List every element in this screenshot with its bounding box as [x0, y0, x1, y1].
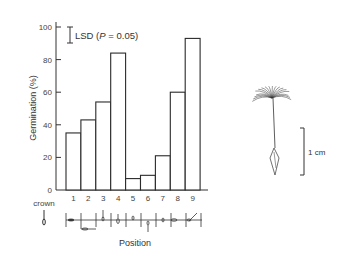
- position-diagram-icon: [66, 210, 202, 232]
- ytick-60: 60: [43, 88, 52, 97]
- scale-bar: 1 cm: [300, 128, 326, 175]
- xtick-5: 5: [131, 194, 136, 203]
- xtick-6: 6: [146, 194, 151, 203]
- ytick-80: 80: [43, 56, 52, 65]
- dandelion-seed-icon: [252, 86, 291, 175]
- bar-position-6: [141, 175, 156, 190]
- y-axis-title: Germination (%): [28, 75, 38, 141]
- ytick-20: 20: [43, 153, 52, 162]
- bar-position-8: [170, 92, 185, 190]
- xtick-2: 2: [86, 194, 91, 203]
- bar-position-2: [81, 120, 96, 190]
- bars: [66, 38, 200, 190]
- lsd-indicator: LSD (P = 0.05): [67, 27, 138, 43]
- bar-position-9: [185, 38, 200, 190]
- scale-bar-label: 1 cm: [308, 148, 326, 157]
- x-axis-title: Position: [119, 238, 151, 248]
- bar-position-4: [111, 53, 126, 190]
- xtick-7: 7: [161, 194, 166, 203]
- crown-seed-icon: crown: [33, 199, 54, 225]
- x-tick-labels: 123456789: [71, 194, 195, 203]
- xtick-8: 8: [176, 194, 181, 203]
- ytick-0: 0: [48, 186, 53, 195]
- bar-position-3: [96, 102, 111, 190]
- bar-position-1: [66, 133, 81, 190]
- germination-chart: 100 80 60 40 20 0 Germination (%) LSD (P…: [0, 0, 338, 253]
- xtick-9: 9: [190, 194, 195, 203]
- xtick-4: 4: [116, 194, 121, 203]
- ytick-100: 100: [39, 23, 53, 32]
- y-ticks: 100 80 60 40 20 0: [39, 23, 61, 195]
- xtick-3: 3: [101, 194, 106, 203]
- ytick-40: 40: [43, 121, 52, 130]
- xtick-1: 1: [71, 194, 76, 203]
- crown-label: crown: [33, 199, 54, 208]
- bar-position-7: [155, 156, 170, 190]
- lsd-label: LSD (P = 0.05): [75, 30, 138, 41]
- bar-position-5: [126, 179, 141, 190]
